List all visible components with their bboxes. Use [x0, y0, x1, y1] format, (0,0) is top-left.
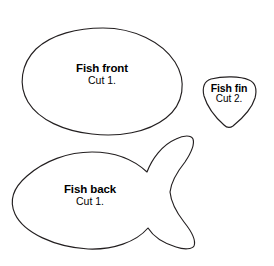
fish-front-cut-instruction: Cut 1.	[60, 75, 144, 86]
fish-fin-cut-instruction: Cut 2.	[200, 94, 258, 105]
fish-fin-label: Fish fin Cut 2.	[200, 83, 258, 105]
pattern-shapes-canvas	[0, 0, 274, 266]
fish-front-title: Fish front	[60, 62, 144, 74]
fish-front-label: Fish front Cut 1.	[60, 62, 144, 87]
fish-back-title: Fish back	[48, 183, 132, 195]
fish-back-cut-instruction: Cut 1.	[48, 196, 132, 207]
fish-back-label: Fish back Cut 1.	[48, 183, 132, 208]
pattern-sheet: Fish front Cut 1. Fish fin Cut 2. Fish b…	[0, 0, 274, 266]
